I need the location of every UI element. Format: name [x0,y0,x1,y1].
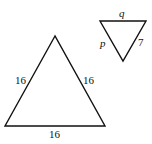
large-right-side-label: 16 [83,74,95,86]
large-left-side-label: 16 [15,74,27,86]
large-bottom-side-label: 16 [49,128,61,140]
small-top-side-label: q [119,7,125,19]
triangles-diagram: 16 16 16 q p 7 [0,0,152,144]
small-left-side-label: p [99,37,106,49]
small-right-side-label: 7 [138,36,144,48]
